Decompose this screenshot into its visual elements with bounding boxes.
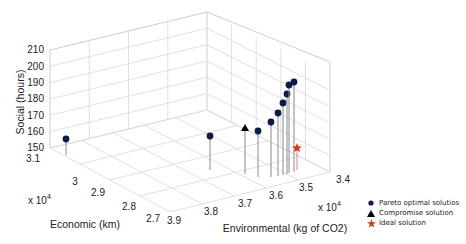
x-axis-label: Economic (km) xyxy=(50,218,120,230)
y-tick: 3.9 xyxy=(167,215,181,226)
pareto-point xyxy=(255,128,262,135)
z-tick: 200 xyxy=(27,61,44,72)
z-tick: 170 xyxy=(27,110,44,121)
pareto-point xyxy=(280,100,287,107)
circle-marker-icon xyxy=(366,200,376,206)
x-tick: 2.7 xyxy=(146,213,160,224)
y-tick: 3.6 xyxy=(269,190,283,201)
x-axis-ticks: 3.1 3 2.9 2.8 2.7 xyxy=(26,153,160,224)
z-axis-label: Social (hours) xyxy=(14,70,26,135)
pareto-point xyxy=(207,133,214,140)
y-tick: 3.8 xyxy=(204,206,218,217)
x-multiplier: x 104 xyxy=(28,193,51,206)
legend-label: Pareto optimal solutios xyxy=(379,199,459,207)
pareto-point xyxy=(275,110,282,117)
star-marker-icon xyxy=(366,219,376,228)
triangle-marker-icon xyxy=(366,210,376,217)
pareto-point xyxy=(291,79,298,86)
legend-label: Compromise solution xyxy=(379,209,453,217)
z-tick: 210 xyxy=(27,44,44,55)
x-tick: 3.1 xyxy=(26,153,40,164)
x-tick: 2.9 xyxy=(91,187,105,198)
y-axis-label: Environmental (kg of CO2) xyxy=(223,222,347,234)
x-tick: 2.8 xyxy=(122,201,136,212)
z-tick: 160 xyxy=(27,126,44,137)
z-tick: 150 xyxy=(27,142,44,153)
legend-label: Ideal solution xyxy=(379,219,426,227)
y-tick: 3.7 xyxy=(238,198,252,209)
pareto-point xyxy=(63,136,70,143)
y-tick: 3.4 xyxy=(336,174,350,185)
z-tick: 180 xyxy=(27,93,44,104)
legend: Pareto optimal solutios Compromise solut… xyxy=(366,198,459,228)
z-tick: 190 xyxy=(27,77,44,88)
pareto-point xyxy=(268,119,275,126)
legend-item-ideal: Ideal solution xyxy=(366,218,459,228)
y-multiplier: x 104 xyxy=(318,200,341,213)
z-axis-ticks: 210 200 190 180 170 160 150 xyxy=(27,44,44,153)
legend-item-pareto: Pareto optimal solutios xyxy=(366,198,459,208)
x-tick: 3 xyxy=(72,176,78,187)
y-tick: 3.5 xyxy=(299,182,313,193)
legend-item-compromise: Compromise solution xyxy=(366,208,459,218)
grid-back-wall xyxy=(50,12,330,212)
